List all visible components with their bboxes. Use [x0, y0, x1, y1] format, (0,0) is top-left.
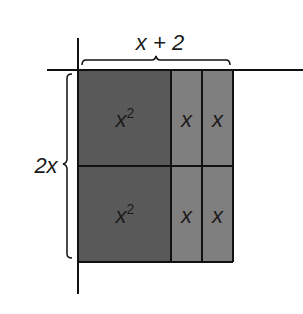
cell-label-x-bottom-2: x: [211, 203, 224, 228]
side-brace: [63, 74, 72, 258]
cell-label-x-bottom-1: x: [180, 203, 193, 228]
top-brace: [82, 56, 230, 65]
cell-label-x-top-2: x: [211, 107, 224, 132]
cell-label-x-top-1: x: [180, 107, 193, 132]
area-model-diagram: x + 2 2x x2 x x x2 x x: [0, 0, 303, 314]
top-dimension-label: x + 2: [135, 30, 184, 55]
side-dimension-label: 2x: [33, 153, 58, 178]
